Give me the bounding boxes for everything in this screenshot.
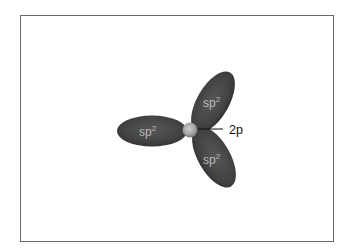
p-orbital-label: 2p (229, 123, 243, 137)
sp2-orbital-diagram: sp2 sp2 sp2 2p (0, 0, 359, 251)
nucleus-sphere (183, 123, 198, 138)
orbital-lobe-left: sp2 (117, 116, 187, 147)
